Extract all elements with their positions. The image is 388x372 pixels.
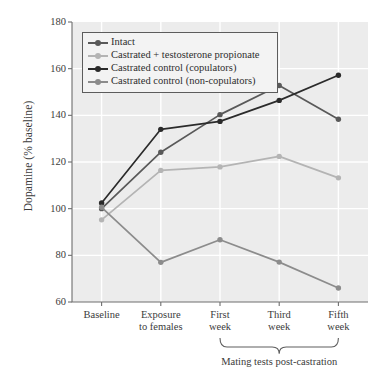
data-point xyxy=(336,175,341,180)
data-point xyxy=(277,98,282,103)
x-tick-label: Fifthweek xyxy=(327,309,349,333)
x-tick-label: Firstweek xyxy=(209,309,231,333)
chart-figure: Dopamine (% baseline) 608010012014016018… xyxy=(0,0,388,372)
data-point xyxy=(217,164,222,169)
data-point xyxy=(217,119,222,124)
data-point xyxy=(336,285,341,290)
data-point xyxy=(158,168,163,173)
data-point xyxy=(277,259,282,264)
legend-item-2[interactable]: Castrated control (copulators) xyxy=(88,62,270,75)
x-tick-label: Exposureto females xyxy=(139,309,182,333)
data-point xyxy=(217,237,222,242)
data-point xyxy=(217,112,222,117)
legend-label: Intact xyxy=(111,37,135,48)
legend-label: Castrated control (non-copulators) xyxy=(111,76,256,87)
chart-legend: IntactCastrated + testosterone propionat… xyxy=(82,32,278,93)
data-point xyxy=(158,127,163,132)
legend-marker-icon xyxy=(88,37,108,49)
legend-item-3[interactable]: Castrated control (non-copulators) xyxy=(88,75,270,88)
mating-tests-brace xyxy=(220,338,338,354)
data-point xyxy=(336,117,341,122)
data-point xyxy=(158,260,163,265)
data-point xyxy=(99,217,104,222)
data-point xyxy=(277,154,282,159)
x-tick-label: Thirdweek xyxy=(268,309,291,333)
data-point xyxy=(336,73,341,78)
x-tick-label: Baseline xyxy=(84,309,120,321)
legend-item-0[interactable]: Intact xyxy=(88,36,270,49)
data-point xyxy=(99,205,104,210)
mating-tests-brace-label: Mating tests post-castration xyxy=(221,356,337,367)
legend-marker-icon xyxy=(88,63,108,75)
legend-item-1[interactable]: Castrated + testosterone propionate xyxy=(88,49,270,62)
legend-marker-icon xyxy=(88,50,108,62)
legend-marker-icon xyxy=(88,76,108,88)
data-point xyxy=(158,150,163,155)
legend-label: Castrated + testosterone propionate xyxy=(111,50,260,61)
legend-label: Castrated control (copulators) xyxy=(111,63,236,74)
